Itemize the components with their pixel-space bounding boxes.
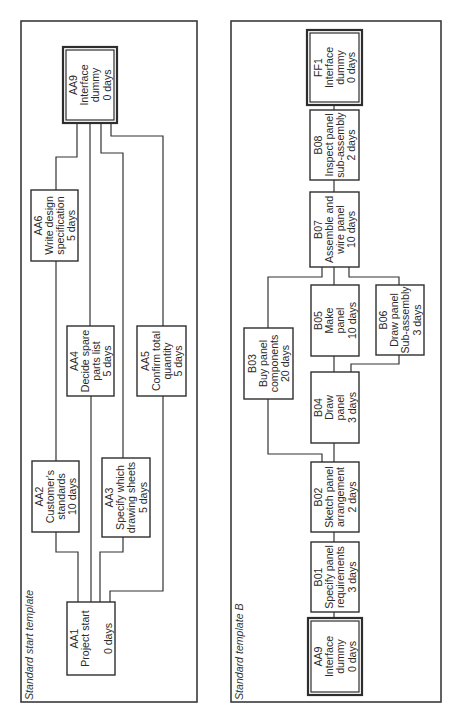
activity-description: panel xyxy=(334,308,346,334)
link-aa9-to-aa3 xyxy=(101,123,123,458)
activity-node-aa5[interactable]: AA5Confirm totalquantity5 days xyxy=(137,326,186,396)
activity-description: wire panel xyxy=(334,205,346,254)
activity-node-aa9[interactable]: AA9Interfacedummy0 days xyxy=(63,47,117,123)
activity-description: Specify which xyxy=(114,465,126,530)
activity-description: Buy panel xyxy=(257,340,269,387)
activity-description: dummy xyxy=(89,67,101,102)
activity-id: AA9 xyxy=(67,75,79,95)
activity-duration: 0 days xyxy=(346,641,358,672)
activity-description: parts list xyxy=(90,341,102,380)
activity-description: quantity xyxy=(161,342,173,380)
activity-id: AA9 xyxy=(312,646,324,666)
activity-duration: 2 days xyxy=(346,481,358,512)
activity-duration: 20 days xyxy=(279,345,291,382)
activity-description: requirements xyxy=(334,546,346,608)
activity-id: B01 xyxy=(312,567,324,586)
activity-id: AA4 xyxy=(68,351,80,371)
activity-duration: 10 days xyxy=(345,211,357,248)
activity-description: arrangement xyxy=(334,467,346,527)
activity-node-ff1[interactable]: FF1Interfacedummy0 days xyxy=(307,30,362,105)
activity-node-b08[interactable]: B08Inspect panelsub-assembly2 days xyxy=(310,110,359,180)
activity-id: AA2 xyxy=(33,486,45,506)
activity-node-aa1[interactable]: AA1Project start0 days xyxy=(67,602,115,675)
activity-description: Specify panel xyxy=(323,545,335,609)
panel-standard-template-b: Standard template BFF1Interfacedummy0 da… xyxy=(231,21,441,702)
activity-duration: 2 days xyxy=(345,129,357,160)
activity-description: standards xyxy=(55,473,67,520)
activity-description: dummy xyxy=(334,49,346,84)
activity-duration: 5 days xyxy=(101,345,113,376)
activity-description: components xyxy=(268,335,280,393)
activity-description: Decide spare xyxy=(79,330,91,393)
activity-id: B08 xyxy=(312,135,324,154)
activity-node-aa6[interactable]: AA6Write designspecification5 days xyxy=(31,190,78,261)
activity-id: AA5 xyxy=(139,351,151,371)
activity-description: sub-assembly xyxy=(334,112,346,178)
activity-node-b02[interactable]: B02Sketch panelarrangement2 days xyxy=(311,462,359,532)
activity-description: Customer's xyxy=(44,470,56,523)
activity-description: Sketch panel xyxy=(323,466,335,527)
link-b06-to-b04 xyxy=(351,355,399,372)
activity-description: Write design xyxy=(43,196,55,255)
activity-duration: 5 days xyxy=(65,210,77,241)
activity-id: B02 xyxy=(312,487,324,506)
panel-standard-start-template: Standard start templateAA9Interfacedummy… xyxy=(21,21,197,702)
activity-description: Draw xyxy=(323,395,335,420)
activity-node-b05[interactable]: B05Makepanel10 days xyxy=(311,285,359,356)
activity-description: Inspect panel xyxy=(323,113,335,176)
activity-description: panel xyxy=(334,395,346,421)
activity-node-aa2[interactable]: AA2Customer'sstandards10 days xyxy=(32,461,79,532)
link-aa2-to-aa1 xyxy=(56,532,78,602)
activity-node-aa9[interactable]: AA9Interfacedummy0 days xyxy=(308,618,362,695)
activity-duration: 0 days xyxy=(345,52,357,83)
activity-description: Project start xyxy=(79,610,91,667)
activity-node-b01[interactable]: B01Specify panelrequirements3 days xyxy=(311,542,359,612)
activity-description: specification xyxy=(54,196,66,254)
activity-description: Interface xyxy=(78,64,90,105)
panel-title: Standard start template xyxy=(23,590,35,700)
activity-description: Interface xyxy=(323,636,335,677)
activity-duration: 5 days xyxy=(137,482,149,513)
activity-node-b07[interactable]: B07Assemble andwire panel10 days xyxy=(310,192,359,267)
network-diagram: Standard start templateAA9Interfacedummy… xyxy=(0,0,465,717)
activity-description: Assemble and xyxy=(323,196,335,263)
activity-duration: 0 days xyxy=(101,69,113,100)
activity-id: B06 xyxy=(377,310,389,329)
activity-id: AA3 xyxy=(103,487,115,507)
activity-duration: 0 days xyxy=(102,623,114,654)
activity-node-b03[interactable]: B03Buy panelcomponents20 days xyxy=(244,328,293,399)
activity-duration: 3 days xyxy=(346,561,358,592)
link-aa3-to-aa1 xyxy=(100,537,123,602)
panel-title: Standard template B xyxy=(233,603,245,700)
activity-description: Sub-assembly xyxy=(399,286,411,354)
activity-id: B05 xyxy=(312,311,324,330)
activity-id: FF1 xyxy=(312,58,324,77)
activity-duration: 5 days xyxy=(172,345,184,376)
activity-duration: 3 days xyxy=(411,304,423,335)
activity-duration: 10 days xyxy=(346,302,358,339)
activity-description: Interface xyxy=(323,47,335,88)
activity-description: Make xyxy=(323,307,335,333)
activity-description: Confirm total xyxy=(150,331,162,391)
activity-description: Draw panel xyxy=(388,293,400,347)
activity-node-b06[interactable]: B06Draw panelSub-assembly3 days xyxy=(376,285,424,355)
activity-id: AA1 xyxy=(68,628,80,648)
activity-id: B03 xyxy=(246,354,258,373)
link-aa9-to-aa6 xyxy=(56,123,77,190)
activity-duration: 3 days xyxy=(346,392,358,423)
activity-node-aa3[interactable]: AA3Specify whichdrawing sheets5 days xyxy=(102,458,150,537)
link-b07-to-b06 xyxy=(349,267,399,285)
activity-id: B07 xyxy=(312,220,324,239)
activity-description: drawing sheets xyxy=(125,462,137,533)
activity-node-b04[interactable]: B04Drawpanel3 days xyxy=(311,372,359,443)
activity-description: dummy xyxy=(334,638,346,673)
activity-node-aa4[interactable]: AA4Decide spareparts list5 days xyxy=(67,326,114,396)
activity-id: B04 xyxy=(312,398,324,417)
activity-duration: 10 days xyxy=(66,478,78,515)
activity-id: AA6 xyxy=(32,215,44,235)
